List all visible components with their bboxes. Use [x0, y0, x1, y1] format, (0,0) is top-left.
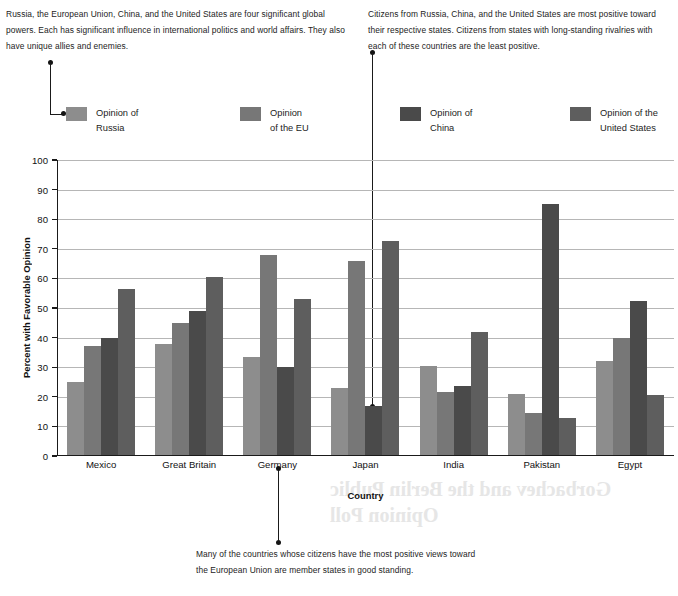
x-axis-label-india: India [410, 459, 498, 470]
y-tick-label-40: 40 [37, 332, 48, 343]
y-tick-label-90: 90 [37, 184, 48, 195]
x-axis-label-egypt: Egypt [586, 459, 674, 470]
y-tick-label-100: 100 [32, 155, 48, 166]
x-axis-labels: MexicoGreat BritainGermanyJapanIndiaPaki… [57, 459, 674, 470]
legend-swatch-united-states [570, 107, 591, 121]
leader-line-bottom-vertical [278, 468, 279, 542]
y-tick-label-10: 10 [37, 421, 48, 432]
x-axis-title: Country [57, 490, 674, 501]
y-tick-label-50: 50 [37, 303, 48, 314]
annotation-top-left: Russia, the European Union, China, and t… [6, 6, 346, 54]
y-tick-label-20: 20 [37, 391, 48, 402]
y-tick-label-30: 30 [37, 362, 48, 373]
annotation-bottom: Many of the countries whose citizens hav… [196, 546, 486, 578]
legend-label-russia: Opinion of Russia [96, 106, 138, 135]
x-axis-label-pakistan: Pakistan [498, 459, 586, 470]
annotation-top-right: Citizens from Russia, China, and the Uni… [368, 6, 668, 54]
legend-label-united-states: Opinion of the United States [600, 106, 658, 135]
y-tick-label-70: 70 [37, 243, 48, 254]
page-showthrough-line-2: Opinion Poll [330, 504, 438, 527]
x-axis-label-great-britain: Great Britain [145, 459, 233, 470]
legend-item-opinion-of-eu: Opinion of the EU [240, 106, 309, 135]
y-tick-label-0: 0 [43, 451, 48, 462]
legend-item-opinion-of-russia: Opinion of Russia [66, 106, 138, 135]
legend-swatch-eu [240, 107, 261, 121]
y-tick-label-80: 80 [37, 214, 48, 225]
legend-label-china: Opinion of China [430, 106, 472, 135]
plot-axes-frame [57, 160, 674, 456]
leader-line-top-left-vertical [50, 63, 51, 115]
chart-plot-area: 1009080706050403020100 [57, 160, 674, 456]
x-axis-label-japan: Japan [321, 459, 409, 470]
y-tick-label-60: 60 [37, 273, 48, 284]
legend-swatch-russia [66, 107, 87, 121]
x-axis-label-germany: Germany [233, 459, 321, 470]
legend-swatch-china [400, 107, 421, 121]
y-axis-title: Percent with Favorable Opinion [19, 160, 33, 456]
x-axis-label-mexico: Mexico [57, 459, 145, 470]
legend-item-opinion-of-united-states: Opinion of the United States [570, 106, 658, 135]
legend-item-opinion-of-china: Opinion of China [400, 106, 472, 135]
legend-label-eu: Opinion of the EU [270, 106, 309, 135]
